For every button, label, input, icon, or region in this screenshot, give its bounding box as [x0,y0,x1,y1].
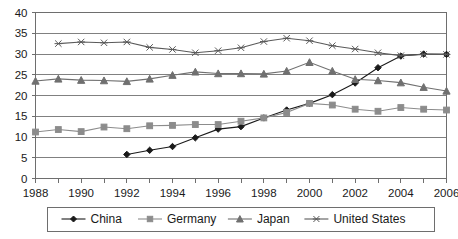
data-point-marker [352,106,358,112]
data-point-marker [329,102,335,108]
data-point-marker [147,123,153,129]
x-tick-label: 2006 [434,187,458,199]
y-tick-label: 30 [15,48,28,60]
data-point-marker [192,122,198,128]
data-point-marker [329,91,335,97]
data-point-marker [375,64,381,70]
data-point-marker [77,39,85,45]
data-point-marker [78,129,84,135]
data-point-marker [101,124,107,130]
data-point-marker [100,40,108,46]
x-tick-label: 1992 [114,187,140,199]
y-tick-label: 25 [15,69,28,81]
y-axis-tick-labels: 0510152025303540 [15,7,28,185]
y-tick-label: 0 [21,173,27,185]
data-point-marker [192,135,198,141]
data-point-marker [33,129,39,135]
series-japan [32,59,450,94]
data-point-marker [169,46,177,52]
data-point-marker [374,50,382,56]
x-tick-label: 1990 [68,187,94,199]
data-point-marker [284,110,290,116]
data-point-marker [237,45,245,51]
legend-label: China [91,212,123,226]
y-tick-label: 20 [15,90,28,102]
data-point-marker [329,67,336,74]
data-point-marker [215,122,221,128]
data-point-marker [444,107,450,113]
data-point-marker [260,38,268,44]
line-chart: 0510152025303540 19881990199219941996199… [0,0,458,239]
series-united-states [55,35,451,59]
x-tick-label: 2002 [342,187,368,199]
data-point-marker [421,106,427,112]
data-point-marker [192,50,200,56]
data-point-marker [306,59,313,66]
data-point-marker [169,143,175,149]
data-point-marker [307,100,313,106]
data-point-marker [124,151,130,157]
chart-legend: ChinaGermanyJapanUnited States [48,207,435,231]
data-point-marker [261,115,267,121]
data-series-group [32,35,450,158]
data-point-marker [283,35,291,41]
x-tick-label: 2000 [297,187,323,199]
series-line [58,38,446,55]
x-tick-label: 1988 [23,187,49,199]
x-tick-label: 1998 [251,187,277,199]
data-point-marker [147,216,152,221]
gridlines-group [32,13,447,179]
y-tick-label: 40 [15,7,28,19]
data-point-marker [375,108,381,114]
data-point-marker [55,127,61,133]
x-tick-label: 1996 [205,187,231,199]
x-axis-tickmarks [36,179,447,183]
data-point-marker [238,118,244,124]
chart-canvas: 0510152025303540 19881990199219941996199… [0,0,458,239]
legend-label: Japan [257,212,290,226]
y-tick-label: 35 [15,27,28,39]
data-point-marker [146,44,154,50]
data-point-marker [124,126,130,132]
y-tick-label: 10 [15,131,28,143]
data-point-marker [146,147,152,153]
data-point-marker [398,105,404,111]
x-axis-tick-labels: 1988199019921994199619982000200220042006 [23,187,458,199]
y-tick-label: 15 [15,110,28,122]
data-point-marker [351,46,359,52]
y-tick-label: 5 [21,152,27,164]
legend-label: Germany [167,212,216,226]
data-point-marker [214,47,222,53]
data-point-marker [306,38,314,44]
data-point-marker [329,43,337,49]
legend-label: United States [333,212,405,226]
data-point-marker [123,39,131,45]
data-point-marker [55,40,63,46]
x-tick-label: 1994 [160,187,186,199]
data-point-marker [170,122,176,128]
x-tick-label: 2004 [388,187,414,199]
